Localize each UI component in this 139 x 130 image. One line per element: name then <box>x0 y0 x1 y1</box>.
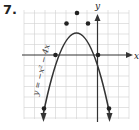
y-axis-label: y <box>94 1 101 11</box>
parabola-graph: x y y = −x² − 4x <box>0 0 139 130</box>
curve-arrow-left-icon <box>41 113 47 122</box>
x-axis-arrow-icon <box>126 52 133 58</box>
y-axis-arrow-icon <box>95 14 101 21</box>
curve-arrow-right-icon <box>107 113 113 122</box>
x-axis-label: x <box>134 51 139 61</box>
